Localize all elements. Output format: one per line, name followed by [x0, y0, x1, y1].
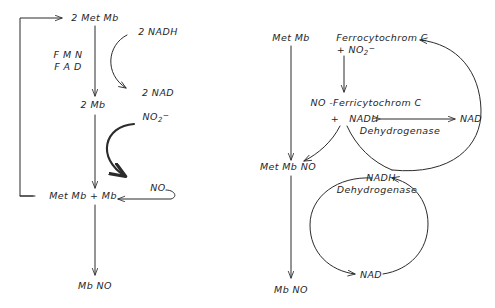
- label-met-mb-right: Met Mb: [272, 33, 309, 44]
- label-nitrite: NO2−: [143, 112, 170, 124]
- left-curve-nitrite-thick: [107, 124, 134, 176]
- label-nad-bottom: NAD: [360, 270, 382, 281]
- label-ferrocytochrom-c: Ferrocytochrom C: [336, 33, 428, 44]
- plus-nitrite-text: + NO: [337, 44, 364, 55]
- label-nadh-bottom: NADH: [366, 173, 396, 184]
- left-no-hook: [118, 190, 175, 199]
- label-met-mb-no: Met Mb NO: [260, 162, 316, 173]
- label-nad-top: NAD: [460, 114, 482, 125]
- nitrite-charge: −: [163, 111, 170, 120]
- label-no-ferricytochrom-c: NO -Ferricytochrom C: [310, 98, 421, 109]
- label-fad: F A D: [54, 61, 83, 73]
- label-dehydrogenase-top: Dehydrogenase: [360, 126, 440, 137]
- label-no: NO: [150, 183, 165, 194]
- left-recycle-path: [20, 18, 62, 196]
- diagram-canvas: 2 Met Mb F M N F A D 2 NADH 2 NAD 2 Mb N…: [0, 0, 495, 308]
- label-mb-no-left: Mb NO: [78, 281, 112, 292]
- label-2-nadh: 2 NADH: [138, 27, 178, 38]
- right-v-left-branch: [304, 126, 340, 161]
- label-plus-sign: +: [331, 114, 339, 125]
- label-plus-nitrite: + NO2−: [337, 45, 376, 57]
- label-dehydrogenase-bottom: Dehydrogenase: [337, 185, 417, 196]
- label-2-nad: 2 NAD: [142, 88, 174, 99]
- label-2-mb: 2 Mb: [81, 100, 106, 111]
- label-2-met-mb: 2 Met Mb: [71, 13, 118, 24]
- label-fmn: F M N: [54, 49, 83, 61]
- label-cofactors: F M N F A D: [54, 49, 83, 73]
- diagram-strokes: [0, 0, 495, 308]
- label-nadh-top: NADH: [349, 114, 379, 125]
- label-mb-no-right: Mb NO: [274, 285, 308, 296]
- nitrite-text: NO: [143, 111, 158, 122]
- label-metmb-plus-mb: Met Mb + Mb: [49, 191, 117, 202]
- left-curve-nadh-to-nad: [111, 35, 127, 88]
- plus-nitrite-charge: −: [369, 44, 376, 53]
